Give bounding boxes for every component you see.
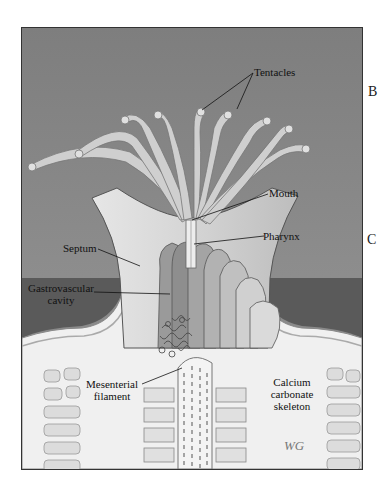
label-mouth: Mouth xyxy=(269,187,298,199)
label-tentacles: Tentacles xyxy=(254,66,295,78)
label-mesenterial-filament: Mesenterial filament xyxy=(77,378,147,402)
diagram-frame: Tentacles Mouth Pharynx Septum Gastrovas… xyxy=(21,27,363,470)
side-letter-c: C xyxy=(367,232,376,248)
label-calcium-line2: carbonate xyxy=(260,388,324,400)
label-calcium-carbonate-skeleton: Calcium carbonate skeleton xyxy=(260,376,324,412)
label-gastrovascular-cavity: Gastrovascular cavity xyxy=(25,282,97,306)
label-mesenterial-line1: Mesenterial xyxy=(77,378,147,390)
label-calcium-line1: Calcium xyxy=(260,376,324,388)
label-calcium-line3: skeleton xyxy=(260,400,324,412)
label-gastrovascular-line2: cavity xyxy=(25,294,97,306)
artist-signature: WG xyxy=(284,438,304,454)
label-mesenterial-line2: filament xyxy=(77,390,147,402)
label-septum: Septum xyxy=(63,242,97,254)
label-pharynx: Pharynx xyxy=(263,230,300,242)
label-gastrovascular-line1: Gastrovascular xyxy=(25,282,97,294)
side-letter-b: B xyxy=(368,84,377,100)
